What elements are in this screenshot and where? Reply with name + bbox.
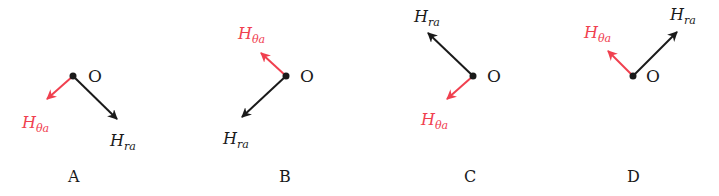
- panel-label: C: [464, 167, 476, 186]
- vector-diagram: O Hθa Hra A O Hθa Hra B O Hra Hθa C O Hr…: [0, 0, 719, 196]
- panel-a: O Hθa Hra A: [21, 66, 136, 186]
- h-r-label: Hra: [669, 5, 696, 27]
- panel-d: O Hra Hθa D: [583, 5, 696, 186]
- origin-dot: [630, 73, 637, 80]
- h-theta-arrow: [47, 76, 73, 99]
- panel-b: O Hθa Hra B: [222, 24, 314, 186]
- origin-label: O: [300, 66, 314, 86]
- h-theta-label: Hθa: [583, 23, 611, 45]
- panel-label: A: [67, 167, 80, 186]
- panel-c: O Hra Hθa C: [413, 7, 501, 186]
- origin-dot: [70, 73, 77, 80]
- h-r-label: Hra: [222, 129, 249, 151]
- h-theta-label: Hθa: [420, 110, 448, 132]
- origin-label: O: [88, 66, 102, 86]
- h-r-label: Hra: [413, 7, 440, 29]
- h-theta-arrow: [608, 51, 633, 76]
- origin-dot: [470, 73, 477, 80]
- origin-label: O: [646, 66, 660, 86]
- panel-label: D: [627, 167, 640, 186]
- origin-dot: [283, 73, 290, 80]
- h-theta-label: Hθa: [237, 24, 265, 46]
- h-theta-label: Hθa: [21, 113, 49, 135]
- h-r-label: Hra: [109, 131, 136, 153]
- origin-label: O: [487, 66, 501, 86]
- h-r-arrow: [428, 33, 473, 76]
- h-theta-arrow: [447, 76, 473, 99]
- h-r-arrow: [242, 76, 286, 117]
- h-theta-arrow: [261, 53, 286, 76]
- panel-label: B: [279, 167, 291, 186]
